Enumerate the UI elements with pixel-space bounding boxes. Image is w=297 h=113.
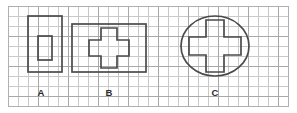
shape-label-b: B xyxy=(106,87,113,98)
shape-label-a: A xyxy=(38,87,45,98)
grid-figure-svg: ABC xyxy=(0,0,297,113)
shape-label-c: C xyxy=(212,87,219,98)
diagram-canvas: ABC xyxy=(0,0,297,113)
